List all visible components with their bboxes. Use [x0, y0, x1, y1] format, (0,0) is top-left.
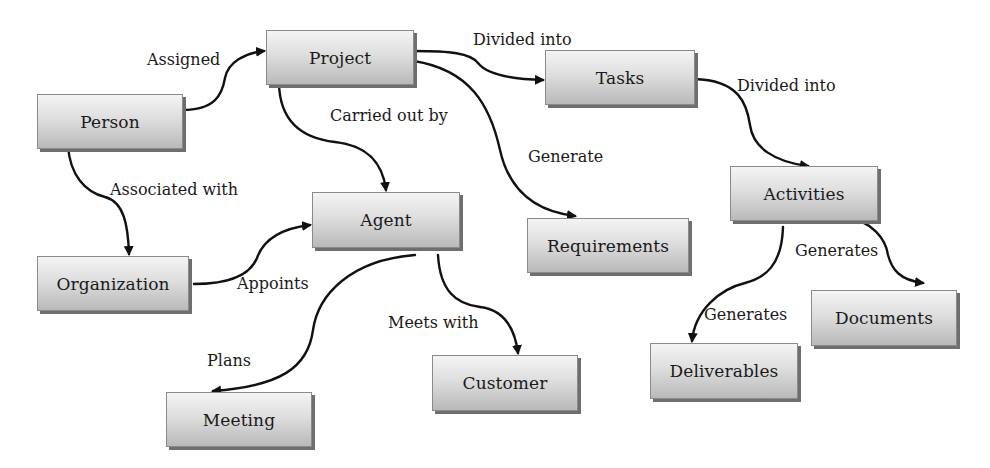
- node-documents-label: Documents: [835, 308, 933, 328]
- node-project[interactable]: Project: [266, 30, 414, 85]
- node-documents[interactable]: Documents: [811, 290, 957, 346]
- edge-label-assigned: Assigned: [147, 50, 220, 69]
- node-meeting-label: Meeting: [203, 410, 275, 430]
- node-requirements[interactable]: Requirements: [527, 218, 689, 273]
- node-agent-label: Agent: [360, 210, 412, 230]
- node-customer-label: Customer: [463, 373, 548, 393]
- node-tasks-label: Tasks: [596, 68, 644, 88]
- edge-label-meets-with: Meets with: [388, 313, 479, 332]
- edge-label-plans: Plans: [207, 351, 251, 370]
- edge-label-generate: Generate: [528, 147, 603, 166]
- edge-label-carried-out-by: Carried out by: [330, 106, 448, 125]
- edge-label-generates-deliverables: Generates: [704, 305, 787, 324]
- edge-label-project-divided-into: Divided into: [473, 30, 572, 49]
- node-activities-label: Activities: [763, 184, 844, 204]
- node-project-label: Project: [309, 48, 371, 68]
- node-deliverables[interactable]: Deliverables: [650, 343, 798, 399]
- edge-label-generates-documents: Generates: [795, 241, 878, 260]
- node-activities[interactable]: Activities: [730, 166, 878, 221]
- edge-project-agent: [279, 84, 386, 190]
- node-person[interactable]: Person: [37, 94, 183, 149]
- edge-label-appoints: Appoints: [237, 274, 309, 293]
- node-organization[interactable]: Organization: [37, 256, 189, 311]
- node-customer[interactable]: Customer: [432, 355, 578, 411]
- node-deliverables-label: Deliverables: [670, 361, 779, 381]
- edge-agent-customer: [438, 255, 518, 353]
- concept-map-canvas: Assigned Divided into Divided into Carri…: [0, 0, 990, 468]
- node-tasks[interactable]: Tasks: [545, 50, 695, 105]
- node-requirements-label: Requirements: [547, 236, 669, 256]
- node-meeting[interactable]: Meeting: [166, 392, 312, 447]
- edge-label-associated-with: Associated with: [110, 180, 238, 199]
- node-organization-label: Organization: [56, 274, 169, 294]
- node-person-label: Person: [80, 112, 139, 132]
- edge-label-tasks-divided-into: Divided into: [737, 76, 836, 95]
- edge-person-organization: [68, 146, 129, 254]
- node-agent[interactable]: Agent: [312, 192, 460, 248]
